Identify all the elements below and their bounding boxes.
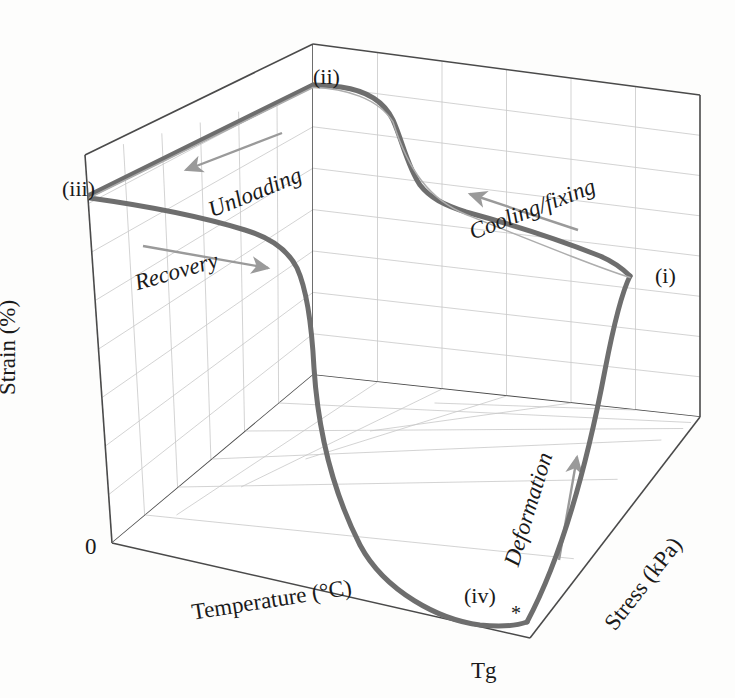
y-axis-zero-tick: 0 <box>85 535 97 558</box>
asterisk-mark: * <box>511 603 521 623</box>
y-axis-label-strain: Strain (%) <box>0 300 19 395</box>
stage-marker-ii: (ii) <box>313 66 340 88</box>
stage-marker-i: (i) <box>655 265 676 287</box>
stage-marker-iv: (iv) <box>464 585 496 607</box>
stage-marker-iii: (iii) <box>62 178 95 200</box>
x-axis-tg-tick: Tg <box>471 659 497 682</box>
figure-3d-smp-cycle: (ii) (iii) (i) (iv) * 0 Tg Strain (%) Te… <box>0 0 735 698</box>
